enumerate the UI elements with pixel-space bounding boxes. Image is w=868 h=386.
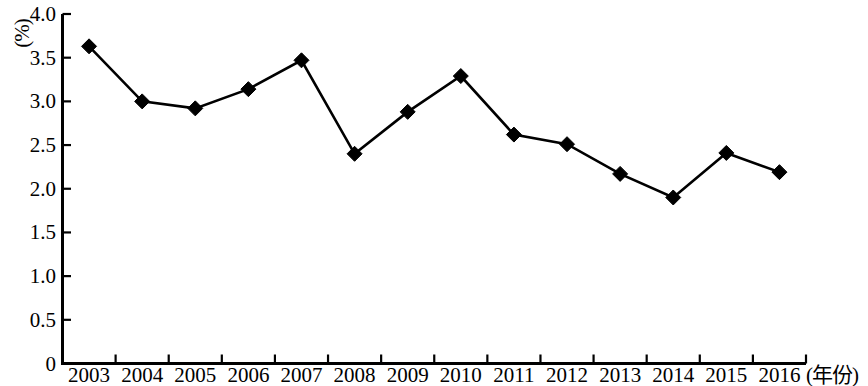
x-axis-title: (年份) xyxy=(806,365,858,386)
line-chart: (%) 00.51.01.52.02.53.03.54.0 2003200420… xyxy=(0,0,868,386)
x-axis-tick-labels: 2003200420052006200720082009201020112012… xyxy=(0,0,868,386)
x-axis-tick-label: 2016 xyxy=(744,365,814,386)
